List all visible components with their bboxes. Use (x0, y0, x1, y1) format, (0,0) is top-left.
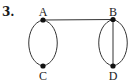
graph-diagram: A B C D (0, 0, 140, 83)
vertex-label-a: A (39, 5, 48, 19)
vertex-label-c: C (39, 69, 47, 83)
edge-a-c-right (43, 20, 57, 66)
vertex-label-b: B (109, 5, 117, 19)
vertex-c (40, 63, 45, 68)
vertex-label-d: D (109, 69, 118, 83)
edge-b-d-right (113, 20, 127, 67)
edge-b-d-left (99, 20, 113, 67)
edge-a-b (43, 20, 113, 21)
vertex-d (110, 63, 115, 68)
edge-a-c-left (29, 20, 43, 66)
